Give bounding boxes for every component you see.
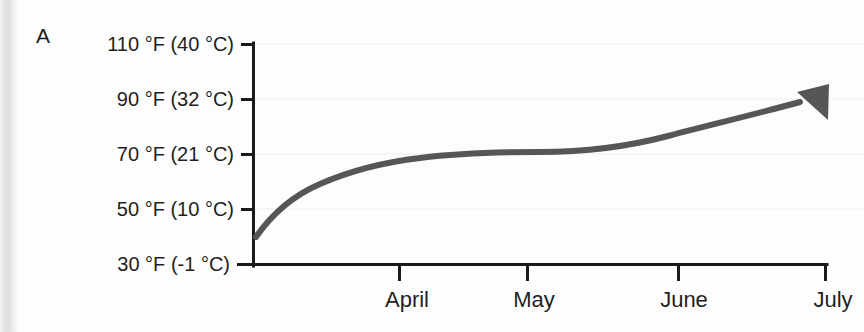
x-tick-label-april: April: [385, 287, 429, 312]
y-tick-label-50f: 50 °F (10 °C): [117, 198, 234, 220]
y-tick-label-110f: 110 °F (40 °C): [107, 33, 234, 55]
y-axis-tick-labels: 110 °F (40 °C) 90 °F (32 °C) 70 °F (21 °…: [107, 33, 234, 275]
temperature-trend-curve: [256, 102, 800, 237]
x-axis-ticks: [400, 264, 826, 281]
y-tick-label-70f: 70 °F (21 °C): [117, 143, 234, 165]
x-tick-label-june: June: [660, 287, 708, 312]
y-axis-ticks: [237, 45, 254, 265]
x-tick-label-may: May: [513, 287, 555, 312]
y-tick-label-90f: 90 °F (32 °C): [117, 88, 234, 110]
y-tick-label-30f: 30 °F (-1 °C): [117, 253, 230, 275]
x-axis-tick-labels: April May June July: [385, 287, 853, 312]
temperature-line-chart: 110 °F (40 °C) 90 °F (32 °C) 70 °F (21 °…: [0, 0, 864, 332]
chart-figure-panel: A 110 °F (40 °C) 90 °F (32 °C) 70 °F (21…: [0, 0, 864, 332]
gridlines: [253, 44, 864, 209]
x-tick-label-july: July: [813, 287, 852, 312]
